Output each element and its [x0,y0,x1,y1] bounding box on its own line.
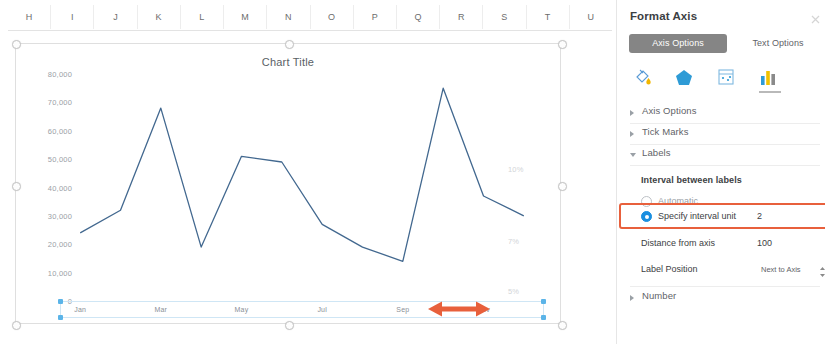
fill-bucket-icon[interactable] [631,66,657,90]
tab-text-options[interactable]: Text Options [735,34,821,53]
axis-handle-right-bottom[interactable] [541,315,546,320]
secondary-percent-label: 5% [508,287,519,296]
y-tick-label: 10,000 [12,268,72,277]
radio-specify-interval-unit[interactable]: Specify interval unit [641,209,821,225]
section-labels[interactable]: Labels [630,147,820,164]
chart-line-svg [16,44,562,325]
column-header-t[interactable]: T [527,5,570,29]
section-labels-label: Labels [642,147,671,158]
radio-automatic-indicator[interactable] [641,196,652,207]
radio-specify-interval-unit-label: Specify interval unit [658,209,736,224]
stepper-icon[interactable] [819,264,825,276]
distance-from-axis-input[interactable]: 100 [757,236,772,251]
axis-handle-right-top[interactable] [541,299,546,304]
column-header-q[interactable]: Q [397,5,440,29]
pane-title: Format Axis [630,10,697,22]
x-tick-label: Jul [317,306,327,313]
chevron-right-icon [630,110,634,116]
radio-automatic-label: Automatic [658,194,698,209]
y-tick-label: 80,000 [12,70,72,79]
excel-chart-format-axis-screen: HIJKLMNOPQRSTU Chart Title 010,00020,000… [0,0,825,344]
column-header-n[interactable]: N [267,5,310,29]
column-header-o[interactable]: O [311,5,354,29]
format-axis-pane: Format Axis Axis Options Text Options [616,0,825,344]
section-tick-marks-label: Tick Marks [642,126,689,137]
axis-handle-left-bottom[interactable] [58,315,63,320]
y-tick-label: 70,000 [12,98,72,107]
section-tick-marks[interactable]: Tick Marks [630,126,820,143]
radio-specify-interval-unit-indicator[interactable] [641,211,652,222]
chevron-down-icon [630,153,636,157]
specify-interval-unit-input[interactable]: 2 [757,209,762,224]
y-tick-label: 50,000 [12,155,72,164]
chart-series-line[interactable] [80,88,524,261]
chart-plot-area[interactable] [16,44,562,325]
y-tick-label: 40,000 [12,183,72,192]
distance-from-axis-label: Distance from axis [641,236,715,251]
column-header-h[interactable]: H [8,5,51,29]
interval-between-labels-title: Interval between labels [641,175,742,185]
column-header-j[interactable]: J [94,5,137,29]
divider [630,144,820,145]
radio-automatic[interactable]: Automatic [641,194,821,210]
x-tick-label: Jan [74,306,86,313]
divider [630,123,820,124]
label-position-label: Label Position [641,262,698,277]
axis-options-chart-icon[interactable] [757,66,783,90]
pane-icon-toolbar [631,66,821,92]
size-properties-icon[interactable] [715,66,741,90]
label-position-row: Label Position Next to Axis [631,262,825,278]
y-tick-label: 60,000 [12,126,72,135]
close-icon[interactable] [810,11,821,22]
distance-from-axis-row: Distance from axis 100 [631,236,825,252]
secondary-percent-label: 7% [508,237,519,246]
column-header-s[interactable]: S [483,5,526,29]
tab-axis-options[interactable]: Axis Options [629,34,727,53]
chevron-right-icon [630,295,634,301]
spreadsheet-area: HIJKLMNOPQRSTU Chart Title 010,00020,000… [0,0,616,344]
label-position-select[interactable]: Next to Axis [761,262,801,277]
section-number[interactable]: Number [630,290,820,307]
column-header-i[interactable]: I [51,5,94,29]
column-header-k[interactable]: K [138,5,181,29]
y-tick-label: 30,000 [12,211,72,220]
section-number-label: Number [642,290,676,301]
chart-object[interactable]: Chart Title 010,00020,00030,00040,00050,… [15,43,561,324]
x-tick-label: Mar [155,306,168,313]
divider [630,165,820,166]
column-header-u[interactable]: U [570,5,612,29]
double-arrow-icon [427,300,491,318]
chevron-right-icon [630,131,634,137]
column-header-p[interactable]: P [354,5,397,29]
column-header-r[interactable]: R [440,5,483,29]
y-tick-label: 20,000 [12,240,72,249]
section-axis-options[interactable]: Axis Options [630,105,820,122]
column-header-m[interactable]: M [224,5,267,29]
column-header-l[interactable]: L [181,5,224,29]
interval-annotation-arrow [427,300,491,318]
column-header-row: HIJKLMNOPQRSTU [8,4,612,31]
x-tick-label: Sep [396,306,409,313]
secondary-percent-label: 10% [508,165,524,174]
effects-pentagon-icon[interactable] [673,66,699,90]
divider [630,286,820,287]
pane-tabs: Axis Options Text Options [627,34,817,53]
section-axis-options-label: Axis Options [642,105,697,116]
axis-handle-left-top[interactable] [58,299,63,304]
x-tick-label: May [235,306,249,313]
